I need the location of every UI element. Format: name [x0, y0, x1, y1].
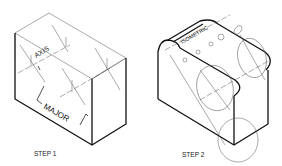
isometric-drawing: AXIS MAJOR STEP 1 ISOMETRIC STEP 2 [0, 0, 282, 166]
step2-caption: STEP 2 [182, 151, 205, 158]
step1-box [15, 13, 126, 145]
major-label: MAJOR [42, 102, 71, 124]
step2-box [158, 15, 271, 162]
step1-caption: STEP 1 [34, 150, 57, 157]
isometric-label: ISOMETRIC [180, 24, 209, 44]
